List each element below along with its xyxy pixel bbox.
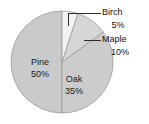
pie-slice-label-pine-name: Pine (31, 57, 49, 67)
pie-slice-label-oak-name: Oak (66, 74, 83, 84)
pie-callout-label-birch-name: Birch (102, 7, 123, 17)
pie-callout-label-birch-value: 5% (111, 20, 124, 30)
pie-chart-svg: Pine 50% Oak 35% Birch 5% Maple 10% (0, 0, 149, 124)
pie-callout-label-maple-name: Maple (102, 34, 127, 44)
pie-slice-label-pine-value: 50% (31, 69, 49, 79)
pie-chart-figure: Pine 50% Oak 35% Birch 5% Maple 10% (0, 0, 149, 124)
pie-callout-label-maple-value: 10% (111, 47, 129, 57)
pie-slice-label-oak-value: 35% (65, 86, 83, 96)
